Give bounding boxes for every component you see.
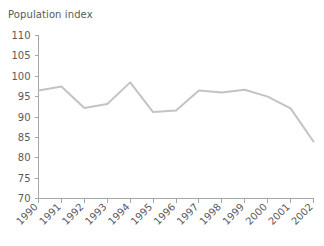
x-tick-label: 1991 xyxy=(37,201,63,227)
x-tick-label: 1990 xyxy=(14,201,40,227)
line-chart: Population index 110105100959085807570 1… xyxy=(0,0,324,246)
y-tick-label: 75 xyxy=(18,173,31,184)
y-tick-label: 85 xyxy=(18,132,31,143)
data-line-population-index xyxy=(39,82,314,141)
y-tick-label: 105 xyxy=(11,50,30,61)
y-tick-label: 90 xyxy=(18,112,31,123)
y-tick-label: 80 xyxy=(18,152,31,163)
y-tick-label: 70 xyxy=(18,193,31,204)
data-series-group xyxy=(39,82,314,141)
chart-plot-area: 110105100959085807570 199019911992199319… xyxy=(0,0,324,246)
y-tick-label: 110 xyxy=(11,30,30,41)
x-tick-label: 1998 xyxy=(197,201,223,227)
x-tick-label: 1999 xyxy=(220,201,246,227)
y-tick-label: 95 xyxy=(18,91,31,102)
y-axis: 110105100959085807570 xyxy=(11,30,38,204)
x-tick-label: 2001 xyxy=(266,201,292,227)
x-tick-label: 1997 xyxy=(175,201,201,227)
x-tick-label: 2000 xyxy=(243,201,269,227)
x-tick-label: 1993 xyxy=(83,201,109,227)
x-tick-label: 2002 xyxy=(289,201,315,227)
x-axis: 1990199119921993199419951996199719981999… xyxy=(14,199,315,227)
x-tick-label: 1992 xyxy=(60,201,86,227)
x-tick-label: 1995 xyxy=(129,201,155,227)
y-tick-label: 100 xyxy=(11,71,30,82)
x-tick-label: 1994 xyxy=(106,201,132,227)
x-tick-label: 1996 xyxy=(152,201,178,227)
